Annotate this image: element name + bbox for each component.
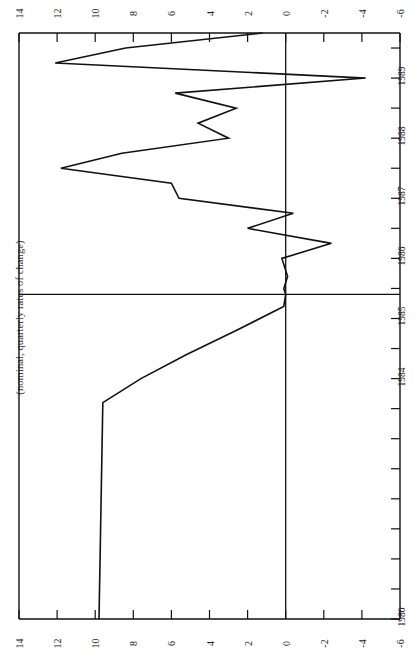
time-axis-tick-label: 1988	[397, 119, 407, 153]
value-axis-tick-label: 4	[204, 633, 215, 655]
value-axis-tick-label: 4	[204, 3, 215, 25]
value-axis-tick-label: 6	[166, 3, 177, 25]
time-axis-tick-label: 1985	[397, 299, 407, 333]
chart-plot-area	[0, 0, 420, 662]
value-axis-tick-label: 6	[166, 633, 177, 655]
data-series-line	[55, 33, 366, 619]
value-axis-tick-label: 14	[14, 633, 25, 655]
value-axis-tick-label: 8	[128, 3, 139, 25]
value-axis-tick-label: 0	[280, 3, 291, 25]
value-axis-tick-label: 8	[128, 633, 139, 655]
value-axis-tick-label: -6	[395, 3, 406, 25]
value-axis-tick-label: 2	[242, 3, 253, 25]
value-axis-tick-label: 10	[90, 3, 101, 25]
value-axis-tick-label: -2	[318, 3, 329, 25]
time-axis-tick-label: 1986	[397, 239, 407, 273]
value-axis-tick-label: 12	[52, 633, 63, 655]
value-axis-tick-label: 0	[280, 633, 291, 655]
value-axis-tick-label: -4	[356, 3, 367, 25]
value-axis-tick-label: 14	[14, 3, 25, 25]
time-axis-tick-label: 1989	[397, 59, 407, 93]
value-axis-tick-label: 12	[52, 3, 63, 25]
time-axis-tick-label: 1980	[397, 600, 407, 634]
time-axis-tick-label: 1987	[397, 179, 407, 213]
value-axis-tick-label: -6	[395, 633, 406, 655]
value-axis-tick-label: -2	[318, 633, 329, 655]
value-axis-tick-label: -4	[356, 633, 367, 655]
time-axis-tick-label: 1984	[397, 360, 407, 394]
value-axis-tick-label: 2	[242, 633, 253, 655]
value-axis-tick-label: 10	[90, 633, 101, 655]
chart-canvas: (nominal, quarterly rates of change) 141…	[0, 0, 420, 662]
